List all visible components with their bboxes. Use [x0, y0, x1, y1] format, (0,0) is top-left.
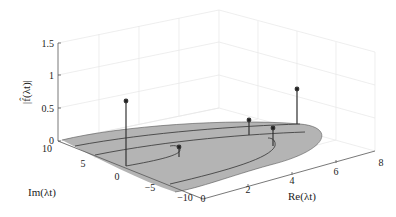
im-tick-neg10: −10 — [177, 192, 193, 203]
re-tick-6: 6 — [334, 166, 339, 177]
z-tick-0.5: 0.5 — [42, 103, 55, 114]
re-tick-4: 4 — [290, 175, 295, 186]
stability-region — [62, 122, 322, 192]
im-tick-5: 5 — [81, 158, 86, 169]
re-tick-2: 2 — [246, 184, 251, 195]
y-axis-label: Im(λt) — [28, 186, 56, 199]
stem-plot-3d: 1.5 1 0.5 0 10 5 0 −5 −10 0 2 4 6 8 Re(λ… — [0, 0, 396, 217]
x-axis-label: Re(λt) — [288, 190, 316, 203]
z-tick-1.5: 1.5 — [42, 38, 55, 49]
z-axis-label: |f̂(λt)| — [19, 80, 33, 104]
im-tick-0: 0 — [115, 171, 120, 182]
re-tick-8: 8 — [379, 157, 384, 168]
im-tick-neg5: −5 — [145, 182, 156, 193]
re-tick-0: 0 — [201, 193, 206, 204]
z-tick-1: 1 — [49, 70, 54, 81]
im-tick-10: 10 — [42, 143, 52, 154]
